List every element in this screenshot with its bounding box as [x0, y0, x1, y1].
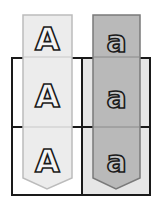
allele-letter: a — [106, 144, 126, 179]
allele-letter: a — [106, 80, 126, 115]
banner-dominant-allele: A A A — [23, 15, 72, 189]
banner-recessive-allele: a a a — [93, 15, 140, 189]
allele-letter: a — [106, 24, 126, 59]
punnett-diagram: A A A a a a — [0, 0, 162, 208]
allele-letter: A — [35, 77, 60, 115]
allele-banners: A A A a a a — [0, 0, 162, 208]
allele-letter: A — [35, 142, 60, 180]
allele-letter: A — [35, 20, 60, 58]
